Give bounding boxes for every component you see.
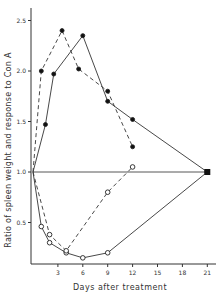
series-line-filled-dashed xyxy=(33,31,133,172)
x-tick-label: 21 xyxy=(203,269,211,276)
data-point xyxy=(60,29,64,33)
series-line-filled-solid xyxy=(33,36,207,172)
data-point xyxy=(81,34,85,38)
y-tick-label: 2.5 xyxy=(16,17,26,24)
x-tick-label: 12 xyxy=(129,269,137,276)
data-point xyxy=(39,224,44,229)
x-tick-label: 3 xyxy=(56,269,60,276)
data-point xyxy=(64,248,69,253)
x-tick-label: 6 xyxy=(81,269,85,276)
data-point xyxy=(106,89,110,93)
data-point xyxy=(105,190,110,195)
data-point xyxy=(77,67,81,71)
y-tick-label: 1.0 xyxy=(16,168,26,175)
y-tick-label: 2.0 xyxy=(16,67,26,74)
data-point xyxy=(47,240,52,245)
data-point xyxy=(39,69,43,73)
line-chart: 0.51.01.52.02.536912151821 Days after tr… xyxy=(0,0,221,295)
y-tick-label: 0.5 xyxy=(16,219,26,226)
x-axis-label: Days after treatment xyxy=(73,283,167,292)
plot-area xyxy=(33,29,210,261)
chart: 0.51.01.52.02.536912151821 Days after tr… xyxy=(0,0,221,295)
series-line-open-dashed xyxy=(33,167,133,251)
data-point xyxy=(81,256,86,261)
data-point xyxy=(131,117,135,121)
series-line-open-solid xyxy=(33,172,207,258)
y-tick-label: 1.5 xyxy=(16,118,26,125)
data-point xyxy=(105,251,110,256)
y-axis-label: Ratio of spleen weight and response to C… xyxy=(4,52,13,248)
data-point xyxy=(47,232,52,237)
x-tick-label: 9 xyxy=(106,269,110,276)
x-tick-label: 15 xyxy=(154,269,162,276)
data-point xyxy=(52,72,56,76)
data-point xyxy=(130,165,135,170)
x-tick-label: 18 xyxy=(179,269,187,276)
data-point xyxy=(106,99,110,103)
endpoint-marker xyxy=(204,169,210,175)
data-point xyxy=(43,123,47,127)
data-point xyxy=(131,145,135,149)
